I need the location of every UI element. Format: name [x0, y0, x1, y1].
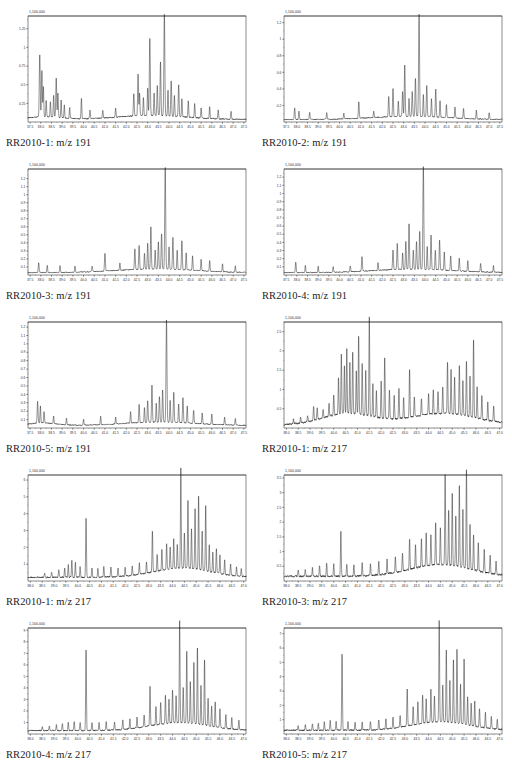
y-tick-label: 0.2 [277, 257, 282, 261]
x-tick-label: 38.0 [283, 431, 290, 435]
x-tick-label: 45.5 [198, 278, 205, 282]
y-tick-label: 0.2 [277, 104, 282, 108]
x-tick-label: 37.5 [283, 278, 290, 282]
y-tick-label: 0.3 [277, 249, 282, 253]
chromatogram-panel: 1,100,00012345638.038.539.039.540.040.54… [6, 463, 262, 616]
x-tick-label: 39.5 [63, 737, 70, 741]
y-tick-label: 0.5 [277, 407, 282, 411]
y-tick-label: 0.8 [21, 359, 26, 363]
chromatogram-plot: 1,100,0000.20.40.60.811.237.538.038.539.… [262, 4, 506, 134]
y-tick-label: 1 [24, 193, 26, 197]
x-tick-label: 43.0 [146, 584, 153, 588]
x-tick-label: 45.5 [205, 584, 212, 588]
x-tick-label: 45.5 [198, 431, 205, 435]
y-tick-label: 2.5 [277, 330, 282, 334]
x-tick-label: 42.5 [390, 737, 397, 741]
x-tick-label: 40.0 [336, 125, 343, 129]
x-tick-label: 42.5 [390, 278, 397, 282]
x-tick-label: 39.5 [326, 278, 333, 282]
x-tick-label: 42.0 [379, 278, 386, 282]
x-tick-label: 44.5 [433, 278, 440, 282]
x-tick-label: 46.0 [473, 584, 480, 588]
x-tick-label: 44.5 [437, 431, 444, 435]
y-tick-label: 8 [24, 640, 26, 644]
x-tick-label: 38.0 [38, 431, 45, 435]
x-tick-label: 42.0 [123, 278, 130, 282]
y-tick-label: 0.6 [21, 376, 26, 380]
x-tick-label: 41.0 [354, 431, 361, 435]
y-tick-label: 0.25 [19, 102, 26, 106]
x-tick-label: 44.5 [181, 584, 188, 588]
x-tick-label: 43.5 [413, 431, 420, 435]
x-tick-label: 41.0 [354, 584, 361, 588]
x-tick-label: 45.0 [193, 584, 200, 588]
x-tick-label: 45.0 [449, 584, 456, 588]
x-tick-label: 41.0 [98, 584, 105, 588]
y-tick-label: 1 [280, 192, 282, 196]
x-tick-label: 40.0 [336, 278, 343, 282]
x-tick-label: 39.0 [59, 431, 66, 435]
y-tick-label: 0.1 [21, 418, 26, 422]
y-tick-label: 0.6 [277, 224, 282, 228]
x-tick-label: 46.0 [217, 584, 224, 588]
chromatogram-panel: 1,100,0000.511.522.533.538.038.539.039.5… [262, 463, 512, 616]
x-tick-label: 44.0 [425, 737, 432, 741]
x-tick-label: 47.0 [486, 125, 493, 129]
x-tick-label: 38.0 [283, 737, 290, 741]
y-tick-label: 0.9 [21, 201, 26, 205]
x-tick-label: 40.0 [75, 584, 82, 588]
x-tick-label: 43.0 [144, 125, 151, 129]
x-tick-label: 43.0 [146, 737, 153, 741]
x-tick-label: 43.0 [402, 431, 409, 435]
x-tick-label: 38.5 [295, 737, 302, 741]
y-tick-label: 1.2 [21, 325, 26, 329]
chromatogram-panel: 1,100,00012345678938.038.539.039.540.040… [6, 616, 262, 769]
y-tick-label: 6 [280, 646, 282, 650]
y-tick-label: 0.7 [277, 216, 282, 220]
y-tick-label: 0.7 [21, 217, 26, 221]
chromatogram-panel: 1,100,0000.10.20.30.40.50.60.70.80.911.1… [6, 310, 262, 463]
x-tick-label: 42.0 [122, 737, 129, 741]
x-tick-label: 43.5 [411, 125, 418, 129]
chromatogram-plot: 1,100,00012345678938.038.539.039.540.040… [6, 616, 250, 746]
x-tick-label: 40.5 [91, 125, 98, 129]
panel-caption: RR2010-3: m/z 191 [6, 289, 262, 302]
x-tick-label: 44.0 [166, 431, 173, 435]
x-tick-label: 42.0 [379, 125, 386, 129]
x-tick-label: 44.0 [422, 278, 429, 282]
x-tick-label: 46.5 [485, 431, 492, 435]
x-tick-label: 41.0 [102, 278, 109, 282]
chromatogram-panel: 1,100,0000.250.50.7511.2537.538.038.539.… [6, 4, 262, 157]
x-tick-label: 38.0 [294, 125, 301, 129]
x-tick-label: 44.0 [169, 584, 176, 588]
chromatogram-panel: 1,100,0000.10.20.30.40.50.60.70.80.911.1… [262, 157, 512, 310]
plot-area: 1,100,0000.10.20.30.40.50.60.70.80.911.1… [6, 310, 250, 440]
x-tick-label: 44.0 [422, 125, 429, 129]
y-tick-label: 0.8 [277, 54, 282, 58]
y-tick-label: 0.75 [19, 64, 26, 68]
x-tick-label: 38.0 [283, 584, 290, 588]
panel-caption: RR2010-3: m/z 217 [262, 595, 512, 608]
y-tick-label: 3 [24, 529, 26, 533]
x-tick-label: 39.0 [307, 737, 314, 741]
x-tick-label: 39.5 [319, 584, 326, 588]
y-tick-label: 0.8 [21, 209, 26, 213]
x-tick-label: 41.5 [112, 431, 119, 435]
x-tick-label: 46.0 [217, 737, 224, 741]
x-tick-label: 46.5 [219, 278, 226, 282]
x-tick-label: 37.5 [27, 431, 34, 435]
x-tick-label: 47.5 [241, 125, 248, 129]
x-tick-label: 46.0 [465, 125, 472, 129]
intensity-scale-label: 1,100,000 [29, 316, 45, 320]
x-tick-label: 45.0 [443, 125, 450, 129]
x-tick-label: 46.0 [473, 431, 480, 435]
y-tick-label: 0.2 [21, 257, 26, 261]
x-tick-label: 39.0 [59, 278, 66, 282]
x-tick-label: 41.0 [98, 737, 105, 741]
intensity-scale-label: 1,100,000 [285, 316, 301, 320]
y-tick-label: 1 [24, 562, 26, 566]
chromatogram-plot: 1,100,00012345638.038.539.039.540.040.54… [6, 463, 250, 593]
x-tick-label: 40.5 [86, 584, 93, 588]
y-tick-label: 0.4 [21, 241, 26, 245]
x-tick-label: 46.5 [219, 125, 226, 129]
